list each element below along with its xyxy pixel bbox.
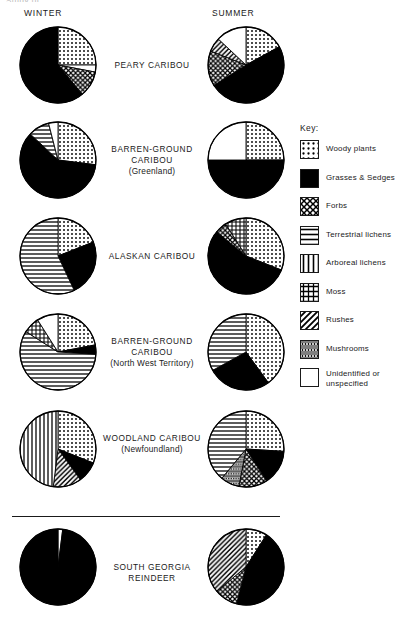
legend-item: Moss [300, 283, 412, 304]
legend-swatch-blank [300, 368, 319, 387]
pie-chart-summer [206, 120, 286, 200]
section-divider [12, 516, 280, 517]
pie-summer-svg [206, 312, 286, 392]
pie-chart-winter [18, 120, 98, 200]
legend-label: Forbs [326, 197, 347, 211]
row-label-name: PEARY CARIBOU [100, 60, 204, 71]
row-label: BARREN-GROUND CARIBOU(Greenland) [100, 144, 204, 177]
legend-item: Woody plants [300, 140, 412, 161]
legend-swatch-grid [300, 283, 319, 302]
pie-chart-winter [18, 312, 98, 392]
legend-swatch-vertical [300, 254, 319, 273]
pie-chart-summer [206, 312, 286, 392]
legend-swatch-crosshatch [300, 197, 319, 216]
pie-winter-svg [18, 312, 98, 392]
row-label-name: BARREN-GROUND CARIBOU [100, 336, 204, 358]
row-label-sub: (Newfoundland) [100, 444, 204, 455]
legend-swatch-diagonal [300, 311, 319, 330]
pie-chart-summer [206, 216, 286, 296]
row-label-name: ALASKAN CARIBOU [100, 251, 204, 262]
pie-summer-svg [206, 25, 286, 105]
column-header-summer: SUMMER [212, 8, 254, 18]
pie-chart-winter [18, 527, 98, 607]
caribou-diet-figure: Study of WINTER SUMMER PEARY CARIBOUBARR… [0, 0, 413, 617]
legend-label: Grasses & Sedges [326, 169, 395, 183]
pie-winter-svg [18, 120, 98, 200]
legend-item: Grasses & Sedges [300, 169, 412, 190]
pie-chart-summer [206, 409, 286, 489]
pie-chart-winter [18, 409, 98, 489]
legend-swatch-solid [300, 169, 319, 188]
row-label-sub: (North West Territory) [100, 358, 204, 369]
pie-chart-winter [18, 216, 98, 296]
row-label: ALASKAN CARIBOU [100, 251, 204, 262]
pie-chart-summer [206, 25, 286, 105]
pie-summer-svg [206, 216, 286, 296]
row-label: PEARY CARIBOU [100, 60, 204, 71]
row-label-name: BARREN-GROUND CARIBOU [100, 144, 204, 166]
row-label-name: WOODLAND CARIBOU [100, 433, 204, 444]
legend-swatch-dots [300, 140, 319, 159]
legend-item: Rushes [300, 311, 412, 332]
legend-label: Woody plants [326, 140, 376, 154]
legend-title: Key: [300, 123, 412, 133]
pie-slice-dots [58, 122, 96, 165]
pie-slice-solid [208, 160, 284, 198]
legend-item: Unidentified orunspecified [300, 368, 412, 389]
legend-swatch-mushroom [300, 340, 319, 359]
pie-slice-vertical [20, 411, 58, 487]
pie-winter-svg [18, 527, 98, 607]
pie-winter-svg [18, 25, 98, 105]
legend-label: Moss [326, 283, 346, 297]
row-label: BARREN-GROUND CARIBOU(North West Territo… [100, 336, 204, 369]
legend-label: Rushes [326, 311, 354, 325]
legend-item: Mushrooms [300, 340, 412, 361]
pie-slice-dots [246, 411, 284, 451]
row-label-name: SOUTH GEORGIA REINDEER [100, 562, 204, 584]
legend-label: Terrestrial lichens [326, 226, 391, 240]
pie-summer-svg [206, 120, 286, 200]
legend-label: Unidentified orunspecified [326, 368, 380, 388]
legend-label: Mushrooms [326, 340, 369, 354]
legend-item: Arboreal lichens [300, 254, 412, 275]
pie-winter-svg [18, 216, 98, 296]
pie-summer-svg [206, 527, 286, 607]
legend-swatch-horizontal [300, 226, 319, 245]
pie-chart-summer [206, 527, 286, 607]
pie-summer-svg [206, 409, 286, 489]
row-label: SOUTH GEORGIA REINDEER [100, 562, 204, 584]
row-label-sub: (Greenland) [100, 166, 204, 177]
legend-key: Key: Woody plantsGrasses & SedgesForbsTe… [300, 123, 412, 397]
legend-label: Arboreal lichens [326, 254, 386, 268]
legend-item: Terrestrial lichens [300, 226, 412, 247]
legend-items: Woody plantsGrasses & SedgesForbsTerrest… [300, 140, 412, 389]
row-label: WOODLAND CARIBOU(Newfoundland) [100, 433, 204, 455]
clipped-header-text: Study of [6, 0, 39, 2]
column-header-winter: WINTER [24, 8, 62, 18]
legend-item: Forbs [300, 197, 412, 218]
pie-chart-winter [18, 25, 98, 105]
pie-winter-svg [18, 409, 98, 489]
